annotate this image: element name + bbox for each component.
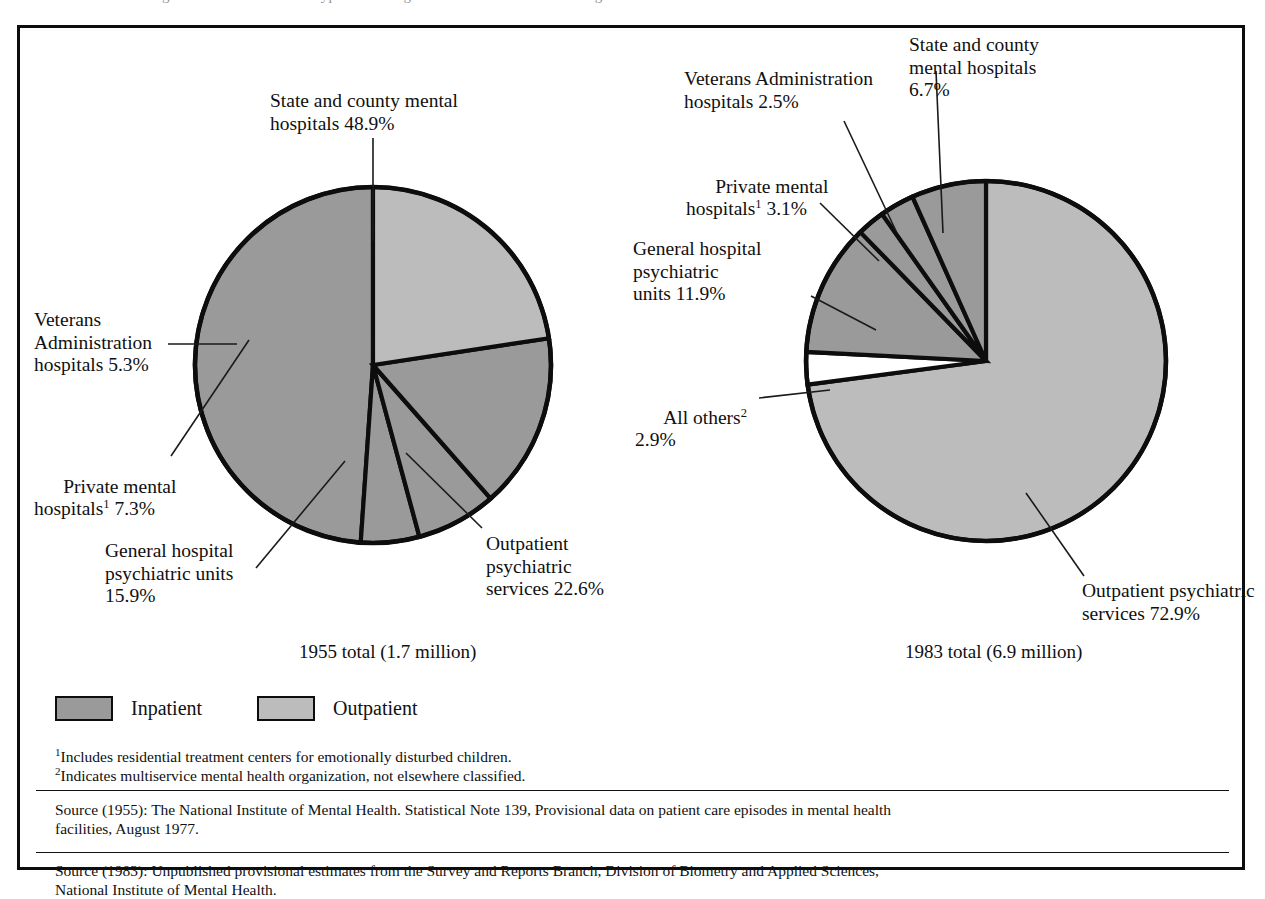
label-1955-state-county: State and county mental hospitals 48.9%	[270, 90, 458, 135]
source-1983: Source (1983): Unpublished provisional e…	[55, 861, 879, 899]
label-1983-private: Private mental hospitals1 3.1%	[686, 153, 828, 243]
slice-1955-outpatient-shape[interactable]	[373, 187, 549, 365]
label-1983-general: General hospital psychiatric units 11.9%	[633, 238, 761, 306]
total-label-1955: 1955 total (1.7 million)	[299, 641, 476, 663]
slice-1955-state-county-shape[interactable]	[195, 187, 373, 543]
legend-item-inpatient: Inpatient	[55, 696, 257, 721]
charts-area: State and county mental hospitals 48.9% …	[20, 28, 1242, 648]
footnote-1-text: Includes residential treatment centers f…	[61, 748, 512, 765]
label-1983-state-county: State and county mental hospitals 6.7%	[909, 34, 1039, 102]
label-1983-all-others: All others2 2.9%	[635, 384, 747, 474]
legend-item-outpatient: Outpatient	[257, 696, 472, 721]
footnotes: 1Includes residential treatment centers …	[55, 748, 525, 785]
footnote-2: 2Indicates multiservice mental health or…	[55, 767, 525, 786]
footnote-marker-2: 2	[741, 405, 747, 419]
source-1955-line2: facilities, August 1977.	[55, 819, 891, 838]
cropped-text-above-figure: the most dramatic changes have occurred …	[0, 0, 1265, 14]
label-1955-private-line2: 7.3%	[110, 498, 156, 519]
figure-frame: State and county mental hospitals 48.9% …	[17, 25, 1245, 870]
label-1955-veterans: Veterans Administration hospitals 5.3%	[34, 309, 152, 377]
leader-1983-veterans	[844, 121, 896, 231]
source-1955-line1: Source (1955): The National Institute of…	[55, 800, 891, 819]
label-1983-all-others-line1: All others	[663, 407, 740, 428]
source-1983-line1: Source (1983): Unpublished provisional e…	[55, 861, 879, 880]
legend-swatch-outpatient	[257, 696, 315, 721]
footnote-1: 1Includes residential treatment centers …	[55, 748, 525, 767]
label-1955-general: General hospital psychiatric units 15.9%	[105, 540, 233, 608]
divider-rule-bottom	[36, 852, 1229, 853]
label-1955-outpatient: Outpatient psychiatric services 22.6%	[486, 533, 604, 601]
legend-label-inpatient: Inpatient	[131, 697, 202, 720]
pie-1983-slices	[806, 181, 1166, 541]
source-1955: Source (1955): The National Institute of…	[55, 800, 891, 838]
legend: Inpatient Outpatient	[55, 696, 473, 721]
legend-swatch-inpatient	[55, 696, 113, 721]
label-1983-veterans: Veterans Administration hospitals 2.5%	[684, 68, 873, 113]
label-1983-outpatient: Outpatient psychiatric services 72.9%	[1082, 580, 1255, 625]
source-1983-line2: National Institute of Mental Health.	[55, 880, 879, 899]
total-label-1983: 1983 total (6.9 million)	[905, 641, 1082, 663]
label-1983-all-others-line2: 2.9%	[635, 429, 676, 450]
footnote-2-text: Indicates multiservice mental health org…	[61, 767, 526, 784]
label-1983-private-line2: 3.1%	[762, 198, 808, 219]
legend-label-outpatient: Outpatient	[333, 697, 417, 720]
cropped-text: the most dramatic changes have occurred …	[18, 0, 633, 4]
label-1955-private: Private mental hospitals1 7.3%	[34, 453, 176, 543]
divider-rule-top	[36, 790, 1229, 791]
